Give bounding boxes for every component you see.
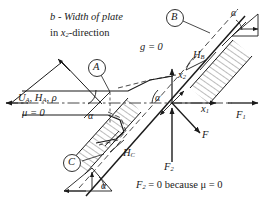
axis-label-x1: x1 [201, 104, 209, 115]
axis-label-x2: x2 [178, 70, 186, 81]
callout-leader-b [183, 21, 210, 33]
figure-canvas: b - Width of plate in x2-direction g = 0… [0, 0, 264, 203]
plate-width-note-line1: b - Width of plate [50, 12, 123, 23]
gravity-label: g = 0 [140, 42, 163, 53]
callout-label-b: B [171, 12, 177, 23]
force-label-f: F [202, 130, 208, 141]
inflow-properties-label: UA, HA, ρ [18, 93, 57, 104]
callout-label-a: A [93, 62, 99, 73]
angle-marker-top-right [222, 14, 258, 46]
force-label-f2: F2 [164, 162, 174, 173]
force-label-f1: F1 [236, 110, 246, 121]
inflow-angle-label: α [88, 111, 93, 121]
viscosity-label: μ = 0 [22, 108, 45, 119]
angle-label-bottom-left: α [101, 181, 106, 191]
thickness-label-hb: HB [193, 50, 205, 61]
plate-width-note-line2: in x2-direction [50, 28, 110, 39]
bottom-note: F2 = 0 because μ = 0 [136, 180, 223, 191]
outflow-jet-c [72, 98, 141, 174]
origin-angle-label: α [155, 93, 160, 103]
angle-label-top-right: α [231, 8, 236, 18]
callout-label-c: C [68, 157, 75, 168]
outflow-jet-b [190, 36, 252, 104]
thickness-label-hc: HC [123, 148, 135, 159]
